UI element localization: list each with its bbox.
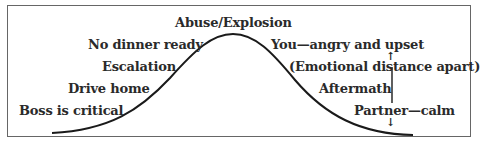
label-partner-calm: Partner—calm xyxy=(354,104,455,118)
label-you-angry-upset: You—angry and upset xyxy=(271,38,424,52)
down-arrow-icon: ↓ xyxy=(386,116,395,130)
label-aftermath: Aftermath xyxy=(319,82,391,96)
label-boss-is-critical: Boss is critical xyxy=(19,104,123,118)
label-abuse-explosion: Abuse/Explosion xyxy=(175,16,292,30)
label-drive-home: Drive home xyxy=(68,82,150,96)
label-no-dinner-ready: No dinner ready xyxy=(88,38,203,52)
label-emotional-distance: (Emotional distance apart) xyxy=(289,60,480,74)
label-escalation: Escalation xyxy=(102,60,176,74)
